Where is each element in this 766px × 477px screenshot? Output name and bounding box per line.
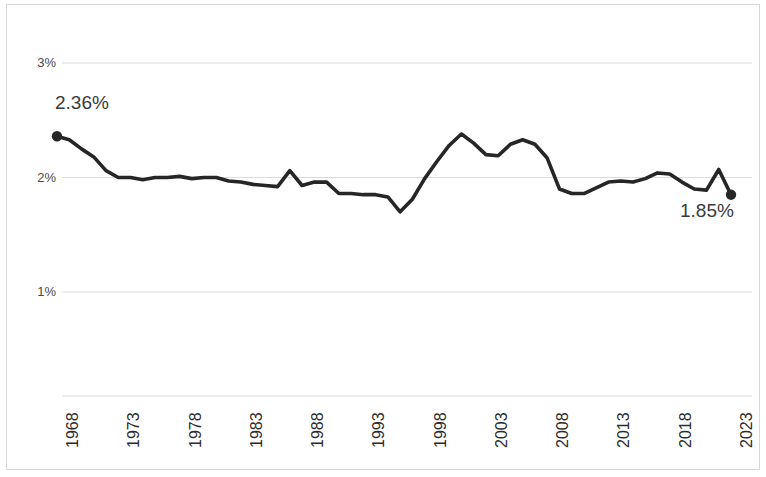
- y-axis-tick-label: 1%: [14, 284, 56, 299]
- data-point-marker: [52, 131, 62, 141]
- x-axis-tick-label: 1993: [370, 412, 388, 448]
- data-point-marker: [726, 189, 736, 199]
- gridlines-group: [62, 63, 752, 396]
- data-point-markers: [52, 131, 736, 200]
- y-axis-tick-label: 3%: [14, 55, 56, 70]
- x-axis-tick-label: 1968: [64, 412, 82, 448]
- x-axis-tick-label: 2013: [615, 412, 633, 448]
- x-axis-tick-label: 2008: [554, 412, 572, 448]
- line-chart-plot: [0, 0, 766, 477]
- x-axis-tick-label: 1973: [125, 412, 143, 448]
- chart-container: 1%2%3% 196819731978198319881993199820032…: [0, 0, 766, 477]
- y-axis-tick-label: 2%: [14, 170, 56, 185]
- x-axis-tick-label: 1983: [248, 412, 266, 448]
- x-axis-tick-label: 1988: [309, 412, 327, 448]
- end-value-annotation: 1.85%: [680, 200, 734, 222]
- x-axis-tick-label: 1998: [432, 412, 450, 448]
- x-axis-tick-label: 2023: [738, 412, 756, 448]
- x-axis-tick-label: 2003: [493, 412, 511, 448]
- start-value-annotation: 2.36%: [55, 92, 109, 114]
- data-line: [57, 134, 731, 212]
- x-axis-tick-label: 2018: [677, 412, 695, 448]
- x-axis-tick-label: 1978: [187, 412, 205, 448]
